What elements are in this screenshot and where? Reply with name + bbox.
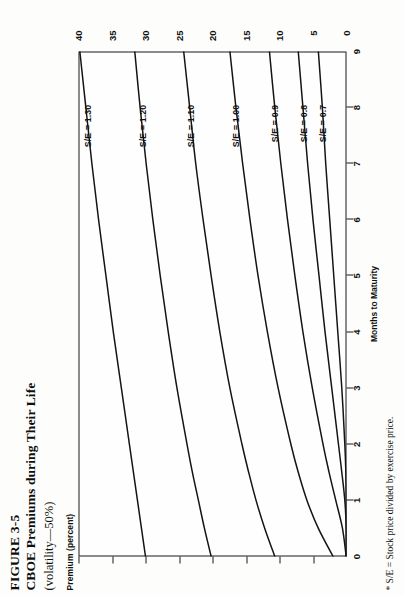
y-tick-label: 35	[106, 30, 117, 56]
x-axis-label: Months to Maturity	[368, 51, 378, 556]
x-tick-mark	[346, 218, 353, 219]
y-tick-mark	[279, 556, 280, 563]
figure-subtitle: (volatility—50%)	[40, 382, 56, 590]
y-axis-label: Premium (percent)	[64, 513, 74, 590]
y-tick-mark	[112, 556, 113, 563]
y-tick-mark	[246, 556, 247, 563]
figure-stage: FIGURE 3-5 CBOE Premiums during Their Li…	[0, 0, 405, 596]
curve-s-e-1-10	[183, 51, 274, 556]
x-tick-label: 0	[350, 553, 361, 558]
plot-area: 0510152025303540 0123456789 S/E = 1.30S/…	[78, 30, 370, 590]
curve-label: S/E = 0.9	[269, 104, 279, 141]
y-tick-mark	[212, 556, 213, 563]
curve-label: S/E = 1.30	[82, 104, 92, 146]
y-tick-label: 30	[140, 30, 151, 56]
x-tick-mark	[346, 443, 353, 444]
y-tick-label: 40	[73, 30, 84, 56]
y-tick-label: 5	[307, 30, 318, 56]
curve-label: S/E = 1.10	[185, 104, 195, 146]
x-tick-mark	[346, 162, 353, 163]
figure-number: FIGURE 3-5	[6, 382, 21, 590]
y-tick-mark	[145, 556, 146, 563]
figure-footnote: * S/E = Stock price divided by exercise …	[384, 416, 394, 590]
y-tick-mark	[313, 556, 314, 563]
y-tick-label: 15	[240, 30, 251, 56]
x-tick-mark	[346, 106, 353, 107]
curve-label: S/E = 0.7	[317, 104, 327, 141]
figure-header: FIGURE 3-5 CBOE Premiums during Their Li…	[6, 382, 56, 590]
y-tick-label: 25	[173, 30, 184, 56]
figure-page: FIGURE 3-5 CBOE Premiums during Their Li…	[0, 0, 405, 596]
curve-label: S/E = 1.00	[230, 104, 240, 146]
y-tick-mark	[78, 556, 79, 563]
x-tick-mark	[346, 274, 353, 275]
y-tick-label: 10	[274, 30, 285, 56]
y-tick-label: 20	[207, 30, 218, 56]
curve-label: S/E = 1.20	[137, 104, 147, 146]
figure-title: CBOE Premiums during Their Life	[22, 382, 38, 590]
x-tick-mark	[346, 387, 353, 388]
x-tick-label: 9	[350, 48, 361, 53]
x-tick-mark	[346, 331, 353, 332]
x-tick-mark	[346, 499, 353, 500]
y-tick-mark	[179, 556, 180, 563]
curve-label: S/E = 0.8	[298, 104, 308, 141]
